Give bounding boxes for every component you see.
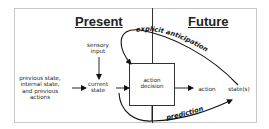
prediction-label: prediction — [165, 104, 205, 121]
prediction-arrow: prediction — [119, 93, 232, 122]
explicit-anticipation-arrow: explicit anticipation — [121, 25, 238, 85]
diagram-arrows: explicit anticipation prediction — [0, 0, 269, 129]
